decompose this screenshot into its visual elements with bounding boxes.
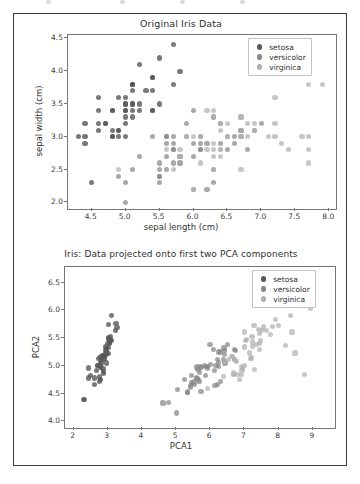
- y-tick-label: 4.5: [41, 33, 63, 42]
- data-point-versicolor: [216, 364, 221, 369]
- data-point-setosa: [130, 82, 135, 87]
- data-point-versicolor: [232, 134, 237, 139]
- data-point-virginica: [289, 329, 294, 334]
- data-point-virginica: [211, 147, 216, 152]
- legend-marker-icon: [257, 54, 262, 59]
- data-point-virginica: [258, 338, 263, 343]
- page-root: Original Iris Data sepal length (cm) sep…: [0, 0, 360, 484]
- legend-item-setosa[interactable]: setosa: [253, 42, 306, 52]
- x-tick-mark: [125, 208, 126, 211]
- data-point-virginica: [261, 324, 266, 329]
- x-tick-mark: [193, 208, 194, 211]
- legend-original: setosaversicolorvirginica: [248, 38, 312, 76]
- data-point-versicolor: [191, 108, 196, 113]
- x-axis-label-original: sepal length (cm): [14, 222, 348, 232]
- data-point-virginica: [239, 364, 244, 369]
- data-point-virginica: [191, 187, 196, 192]
- x-tick-label: 7.5: [288, 212, 300, 221]
- data-point-setosa: [88, 373, 93, 378]
- x-tick-label: 8: [275, 431, 280, 440]
- legend-item-versicolor[interactable]: versicolor: [253, 52, 306, 62]
- data-point-setosa: [101, 357, 106, 362]
- data-point-setosa: [82, 134, 87, 139]
- x-tick-label: 6.0: [187, 212, 199, 221]
- data-point-versicolor: [245, 147, 250, 152]
- legend-item-virginica[interactable]: virginica: [257, 294, 310, 304]
- data-point-setosa: [137, 108, 142, 113]
- data-point-setosa: [94, 368, 99, 373]
- y-tick-mark: [64, 169, 67, 170]
- artifact-dot: [240, 0, 245, 4]
- data-point-versicolor: [204, 141, 209, 146]
- x-tick-label: 5.5: [153, 212, 165, 221]
- data-point-virginica: [116, 167, 121, 172]
- x-tick-label: 5.0: [119, 212, 131, 221]
- data-point-virginica: [279, 141, 284, 146]
- data-point-versicolor: [197, 370, 202, 375]
- data-point-setosa: [82, 121, 87, 126]
- data-point-virginica: [184, 134, 189, 139]
- data-point-virginica: [245, 121, 250, 126]
- data-point-setosa: [157, 55, 162, 60]
- data-point-setosa: [137, 62, 142, 67]
- legend-item-virginica[interactable]: virginica: [253, 62, 306, 72]
- data-point-virginica: [292, 350, 297, 355]
- data-point-setosa: [130, 108, 135, 113]
- data-point-setosa: [123, 95, 128, 100]
- data-point-virginica: [238, 114, 243, 119]
- x-tick-mark: [294, 208, 295, 211]
- data-point-versicolor: [212, 383, 217, 388]
- legend-item-versicolor[interactable]: versicolor: [257, 284, 310, 294]
- legend-label: setosa: [269, 43, 294, 52]
- data-point-virginica: [286, 147, 291, 152]
- data-point-setosa: [143, 88, 148, 93]
- y-tick-mark: [64, 37, 67, 38]
- cropped-top-artifacts: [0, 0, 360, 12]
- x-tick-label: 7.0: [254, 212, 266, 221]
- x-tick-label: 8.0: [322, 212, 334, 221]
- data-point-virginica: [268, 332, 273, 337]
- data-point-setosa: [150, 88, 155, 93]
- data-point-virginica: [234, 359, 239, 364]
- data-point-virginica: [211, 108, 216, 113]
- data-point-virginica: [237, 377, 242, 382]
- data-point-setosa: [103, 350, 108, 355]
- data-point-versicolor: [157, 160, 162, 165]
- x-tick-label: 5: [173, 431, 178, 440]
- data-point-versicolor: [164, 141, 169, 146]
- data-point-virginica: [252, 121, 257, 126]
- data-point-versicolor: [191, 141, 196, 146]
- x-tick-label: 6: [207, 431, 212, 440]
- data-point-virginica: [302, 372, 307, 377]
- data-point-virginica: [273, 317, 278, 322]
- data-point-virginica: [299, 134, 304, 139]
- data-point-setosa: [86, 365, 91, 370]
- data-point-setosa: [137, 101, 142, 106]
- legend-item-setosa[interactable]: setosa: [257, 274, 310, 284]
- data-point-virginica: [218, 121, 223, 126]
- legend-marker-icon: [261, 276, 266, 281]
- data-point-virginica: [238, 128, 243, 133]
- x-tick-label: 3: [104, 431, 109, 440]
- data-point-virginica: [211, 141, 216, 146]
- data-point-versicolor: [198, 389, 203, 394]
- data-point-virginica: [306, 82, 311, 87]
- data-point-setosa: [109, 313, 114, 318]
- y-tick-mark: [61, 365, 64, 366]
- data-point-setosa: [89, 180, 94, 185]
- data-point-versicolor: [171, 141, 176, 146]
- data-point-versicolor: [164, 154, 169, 159]
- x-axis-label-pca: PCA1: [14, 441, 348, 451]
- x-tick-label: 4.5: [85, 212, 97, 221]
- data-point-virginica: [320, 82, 325, 87]
- data-point-virginica: [211, 114, 216, 119]
- data-point-setosa: [123, 108, 128, 113]
- data-point-versicolor: [191, 154, 196, 159]
- data-point-virginica: [251, 323, 256, 328]
- y-tick-label: 3.5: [41, 98, 63, 107]
- y-tick-label: 6.5: [38, 277, 60, 286]
- data-point-versicolor: [150, 134, 155, 139]
- data-point-setosa: [116, 95, 121, 100]
- data-point-versicolor: [218, 379, 223, 384]
- data-point-versicolor: [123, 200, 128, 205]
